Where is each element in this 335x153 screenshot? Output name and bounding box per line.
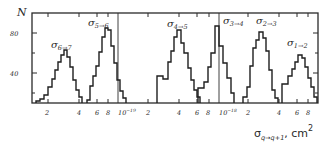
svg-text:4: 4 xyxy=(276,109,281,117)
x-axis-label: σq→q+1, cm2 xyxy=(254,124,313,142)
svg-text:8: 8 xyxy=(106,109,110,117)
svg-text:6: 6 xyxy=(95,109,99,117)
svg-text:8: 8 xyxy=(206,109,210,117)
label-sigma-3-4: σ3→4 xyxy=(223,15,244,28)
y-tick-label-80: 80 xyxy=(10,30,18,38)
svg-text:2: 2 xyxy=(145,109,150,117)
label-sigma-4-5: σ4→5 xyxy=(167,18,188,31)
y-axis-label: N xyxy=(16,6,27,19)
y-ticks-right xyxy=(313,33,318,93)
svg-text:10−19: 10−19 xyxy=(118,108,136,117)
histogram-sigma-3-4 xyxy=(198,26,234,103)
x-tick-labels: 2 4 6 8 10−19 2 4 6 8 10−18 2 4 6 8 xyxy=(44,108,310,117)
svg-text:4: 4 xyxy=(176,109,181,117)
histogram-chart: N 80 40 xyxy=(0,0,335,153)
histogram-sigma-5-6 xyxy=(87,28,126,103)
label-sigma-6-7: σ6→7 xyxy=(51,39,72,52)
svg-text:10−18: 10−18 xyxy=(219,108,237,117)
histogram-sigma-1-2 xyxy=(282,55,317,103)
label-sigma-2-3: σ2→3 xyxy=(256,15,277,28)
histogram-sigma-2-3 xyxy=(243,32,278,103)
label-sigma-5-6: σ5→6 xyxy=(88,17,109,30)
y-ticks-left xyxy=(32,33,37,93)
svg-text:8: 8 xyxy=(306,109,310,117)
svg-text:6: 6 xyxy=(295,109,299,117)
histograms xyxy=(36,26,317,103)
y-tick-label-40: 40 xyxy=(9,70,18,78)
series-labels: σ6→7 σ5→6 σ4→5 σ3→4 σ2→3 σ1→2 xyxy=(51,15,308,52)
svg-text:2: 2 xyxy=(44,109,49,117)
label-sigma-1-2: σ1→2 xyxy=(287,37,308,50)
svg-text:4: 4 xyxy=(76,109,81,117)
svg-text:6: 6 xyxy=(195,109,199,117)
histogram-sigma-6-7 xyxy=(36,50,82,103)
histogram-sigma-4-5 xyxy=(157,30,200,103)
svg-text:2: 2 xyxy=(245,109,250,117)
